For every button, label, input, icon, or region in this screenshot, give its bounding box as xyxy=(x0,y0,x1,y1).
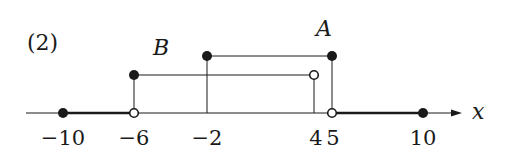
tick-label-4: 4 xyxy=(309,126,322,150)
number-line-diagram: (2) x A B −10 −6 −2 4 5 10 xyxy=(0,0,521,156)
tick-label-minus2: −2 xyxy=(192,126,223,150)
set-b-label: B xyxy=(152,35,169,60)
axis-variable-label: x xyxy=(472,99,485,124)
set-a-label: A xyxy=(314,16,332,41)
axis-closed-dot-10-icon xyxy=(418,108,428,118)
set-a-right-closed-dot-icon xyxy=(327,51,337,61)
problem-label: (2) xyxy=(27,30,58,55)
tick-label-5: 5 xyxy=(326,126,339,150)
axis-closed-dot-minus10-icon xyxy=(58,108,68,118)
axis-open-dot-minus6-icon xyxy=(130,109,139,118)
tick-label-minus6: −6 xyxy=(119,126,150,150)
tick-label-minus10: −10 xyxy=(41,126,85,150)
axis-arrow-icon xyxy=(451,110,462,117)
set-a-left-closed-dot-icon xyxy=(202,51,212,61)
axis-open-dot-5-icon xyxy=(328,109,337,118)
tick-label-10: 10 xyxy=(410,126,437,150)
set-b-right-open-dot-icon xyxy=(310,71,319,80)
set-b-left-closed-dot-icon xyxy=(129,70,139,80)
